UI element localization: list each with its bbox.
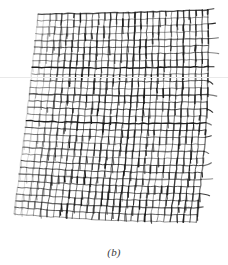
tick-mark: [170, 74, 171, 80]
tick-mark: [61, 149, 62, 158]
tick-mark: [168, 110, 169, 116]
tick-mark: [113, 151, 114, 157]
tick-mark: [143, 110, 144, 116]
tick-mark: [109, 137, 110, 144]
tick-mark: [89, 191, 90, 197]
tick-mark: [60, 211, 61, 215]
tick-mark: [99, 95, 100, 102]
tick-mark: [130, 110, 131, 116]
figure-caption: (b): [107, 246, 120, 258]
tick-mark: [128, 33, 129, 39]
tick-mark: [75, 88, 76, 95]
tick-mark: [190, 208, 191, 214]
tick-mark: [138, 89, 139, 95]
tick-mark: [77, 122, 78, 130]
tick-mark: [53, 47, 54, 53]
tick-mark: [195, 46, 196, 51]
tick-mark: [101, 68, 102, 73]
tick-mark: [102, 130, 103, 134]
tick-mark: [124, 96, 125, 103]
tick-mark: [119, 82, 120, 88]
tick-mark: [34, 47, 35, 54]
tick-mark: [190, 18, 191, 23]
tick-mark: [134, 137, 135, 144]
tick-mark: [134, 33, 135, 39]
tick-mark: [177, 25, 178, 30]
tick-mark: [160, 18, 161, 27]
tick-mark: [146, 61, 147, 66]
tick-mark: [34, 101, 35, 109]
tick-mark: [168, 116, 169, 123]
tick-mark: [43, 142, 44, 146]
tick-mark: [151, 81, 152, 89]
tick-mark: [85, 34, 86, 41]
tick-mark: [33, 67, 34, 72]
figure-container: (b): [0, 0, 228, 265]
tick-mark: [153, 144, 154, 151]
tick-mark: [26, 121, 27, 127]
tick-mark: [97, 109, 98, 116]
tick-mark: [199, 130, 200, 135]
tick-mark: [152, 60, 153, 67]
tick-mark: [163, 165, 164, 172]
tick-mark: [109, 34, 110, 39]
tick-mark: [71, 54, 72, 61]
tick-mark: [148, 187, 149, 195]
tick-mark: [171, 46, 172, 50]
tick-mark: [177, 158, 178, 164]
tick-mark: [147, 193, 148, 197]
tick-mark: [181, 186, 182, 193]
tick-mark: [70, 61, 71, 67]
tick-mark: [38, 182, 39, 189]
tick-mark: [61, 20, 62, 25]
tick-mark: [104, 26, 105, 33]
tick-mark: [57, 129, 58, 135]
tick-mark: [40, 155, 41, 162]
tick-mark: [191, 144, 192, 151]
tick-mark: [182, 88, 183, 96]
tick-mark: [92, 109, 93, 114]
tick-mark: [92, 34, 93, 39]
tick-mark: [109, 47, 110, 54]
tick-mark: [130, 179, 131, 183]
tick-mark: [52, 115, 53, 121]
tick-mark: [183, 53, 184, 62]
tick-mark: [99, 157, 100, 161]
tick-mark: [126, 213, 127, 221]
tick-mark: [87, 157, 88, 163]
tick-mark: [87, 205, 88, 212]
tick-mark: [199, 116, 200, 120]
tick-mark: [148, 131, 149, 136]
tick-mark: [97, 178, 98, 183]
tick-mark: [99, 13, 100, 17]
tick-mark: [81, 82, 82, 87]
tick-mark: [186, 130, 187, 137]
tick-mark: [119, 88, 120, 94]
tick-mark: [61, 204, 62, 212]
warped-mesh-figure: [0, 0, 228, 238]
tick-mark: [47, 41, 48, 46]
tick-mark: [205, 130, 206, 134]
caption-row: (b): [0, 238, 228, 265]
tick-mark: [35, 155, 36, 160]
tick-mark: [146, 151, 147, 155]
tick-mark: [131, 96, 132, 103]
tick-mark: [175, 109, 176, 115]
tick-mark: [35, 94, 36, 98]
mesh-edge-curl: [201, 179, 212, 180]
tick-mark: [70, 136, 71, 143]
tick-mark: [36, 196, 37, 200]
tick-mark: [146, 53, 147, 58]
tick-mark: [192, 138, 193, 143]
tick-mark: [79, 157, 80, 163]
tick-mark: [71, 47, 72, 52]
tick-mark: [113, 158, 114, 164]
tick-mark: [38, 175, 39, 183]
tick-mark: [157, 88, 158, 92]
tick-mark: [112, 165, 113, 173]
mesh-edge-curl: [197, 207, 203, 208]
tick-mark: [203, 151, 204, 155]
tick-mark: [60, 40, 61, 48]
tick-mark: [151, 214, 152, 223]
tick-mark: [67, 156, 68, 160]
